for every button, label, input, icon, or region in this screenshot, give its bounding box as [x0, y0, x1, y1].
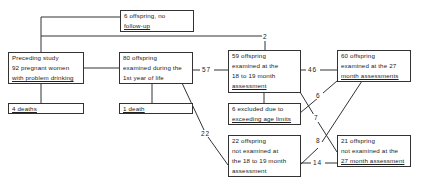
box-80-offspring: 80 offspring examined during the 1st yea… [119, 52, 193, 84]
edge-label-14: 14 [312, 159, 323, 166]
box-4-deaths: 4 deaths [8, 103, 84, 114]
box-line: exceeding age limits [232, 114, 297, 124]
box-1-death: 1 death [119, 103, 193, 114]
edge-label-57: 57 [201, 66, 212, 73]
box-6-excluded: 6 excluded due to exceeding age limits [228, 103, 301, 125]
box-line: 21 offspring [341, 136, 407, 146]
edge-label-8: 8 [315, 137, 321, 144]
edge-label-7: 7 [313, 114, 319, 121]
box-line: 1st year of life [123, 73, 189, 83]
box-line: 4 deaths [12, 104, 80, 113]
box-no-followup: 6 offspring, no follow-up [120, 10, 194, 32]
box-line: follow-up [124, 21, 190, 31]
box-21-offspring: 21 offspring not examined at the 27 mont… [337, 135, 411, 167]
box-line: examined at the 27 [341, 61, 407, 71]
box-line: examined during the [123, 63, 189, 73]
box-line: 6 offspring, no [124, 11, 190, 21]
edge-label-22: 22 [200, 130, 211, 137]
box-line: 18 to 19 month [232, 71, 297, 81]
box-line: Preceding study [12, 53, 80, 63]
box-line: 6 excluded due to [232, 104, 297, 114]
box-60-offspring: 60 offspring examined at the 27 month as… [337, 50, 411, 82]
box-line: 27 month assessment [341, 156, 407, 166]
edge-label-46: 46 [307, 66, 318, 73]
box-22-offspring: 22 offspring not examined at the 18 to 1… [228, 135, 301, 177]
box-line: examined at the [232, 61, 297, 71]
box-line: 60 offspring [341, 51, 407, 61]
box-line: assessment [232, 81, 297, 91]
box-59-offspring: 59 offspring examined at the 18 to 19 mo… [228, 50, 301, 93]
box-preceding-study: Preceding study 92 pregnant women with p… [8, 52, 84, 84]
box-line: 22 offspring [232, 136, 297, 146]
edge-label-6: 6 [315, 92, 321, 99]
box-line: assessment [232, 166, 297, 176]
box-line: month assessments [341, 71, 407, 81]
box-line: the 18 to 19 month [232, 156, 297, 166]
box-line: 1 death [123, 104, 189, 113]
box-line: not examined at [232, 146, 297, 156]
box-line: with problem drinking [12, 73, 80, 83]
box-line: 59 offspring [232, 51, 297, 61]
box-line: 92 pregnant women [12, 63, 80, 73]
edge-label-2: 2 [262, 33, 268, 40]
box-line: 80 offspring [123, 53, 189, 63]
box-line: not examined at the [341, 146, 407, 156]
